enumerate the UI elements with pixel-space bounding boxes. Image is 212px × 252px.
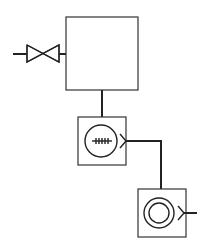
process-diagram xyxy=(0,0,212,252)
unit-2 xyxy=(138,189,186,237)
unit-2-housing xyxy=(138,189,186,237)
unit1-unit2-pipe xyxy=(126,141,161,189)
unit-1 xyxy=(78,117,126,165)
valve-icon xyxy=(27,45,59,62)
tank xyxy=(66,17,138,90)
